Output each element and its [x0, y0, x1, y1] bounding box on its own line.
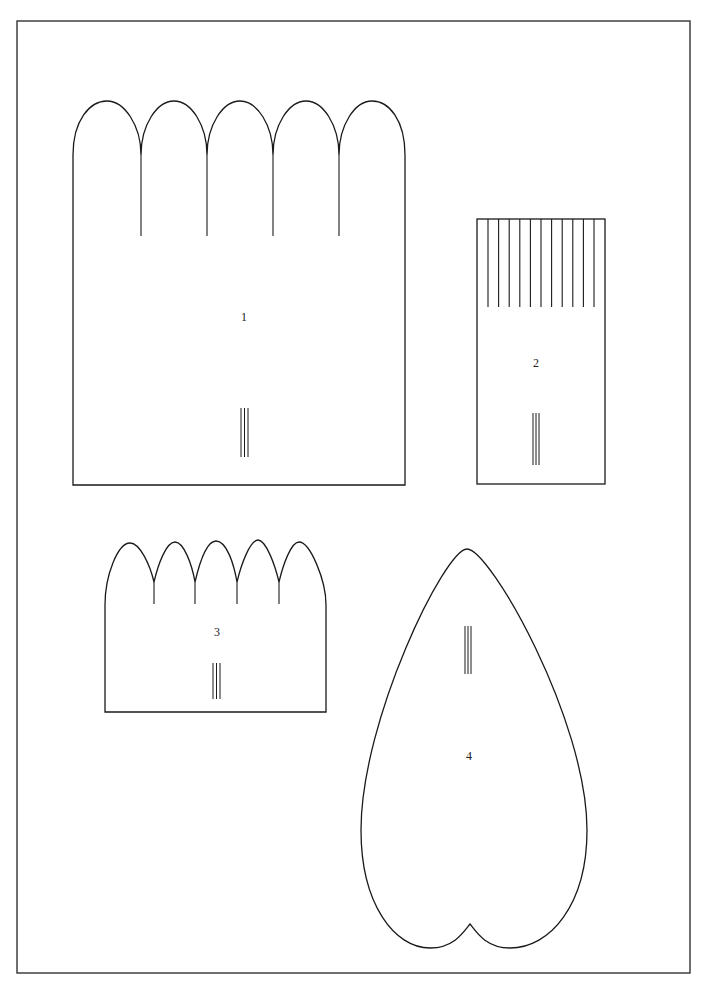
fold-mark: [241, 408, 248, 457]
page-border: [17, 21, 690, 973]
fold-mark: [465, 626, 471, 674]
piece-1-outline: [73, 101, 405, 485]
piece-2-fringe: [488, 219, 594, 307]
piece-3: 3: [105, 540, 326, 712]
piece-label: 3: [214, 625, 220, 639]
piece-2: 2: [477, 219, 605, 484]
piece-1: 1: [73, 101, 405, 485]
piece-4-outline: [361, 549, 587, 948]
piece-label: 2: [533, 356, 539, 370]
piece-3-slits: [154, 582, 279, 604]
pattern-sheet: 1 2 3: [0, 0, 713, 986]
piece-label: 4: [466, 749, 472, 763]
piece-label: 1: [241, 310, 247, 324]
piece-1-slits: [141, 155, 339, 236]
piece-4: 4: [361, 549, 587, 948]
fold-mark: [213, 663, 220, 699]
fold-mark: [533, 413, 539, 465]
